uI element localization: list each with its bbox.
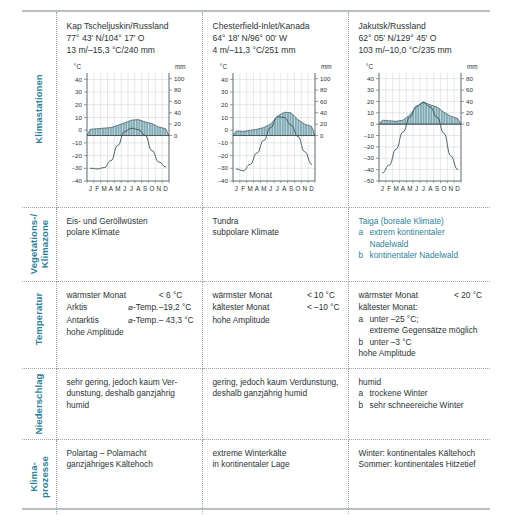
month-label: D	[163, 184, 168, 191]
vegetation-cell-0: Eis- und Geröllwüstenpolare Klimate	[56, 207, 202, 281]
y-tick-label: 10	[221, 113, 228, 120]
climate-comparison-table: Klimastationen Kap Tscheljuskin/Russland…	[0, 0, 508, 516]
temperature-value: < 20 °C	[454, 290, 482, 303]
text-line: Winter: kontinentales Kältehoch	[359, 448, 483, 460]
month-label: F	[95, 184, 99, 191]
comparison-table: Klimastationen Kap Tscheljuskin/Russland…	[22, 12, 490, 514]
y-tick-label: –30	[363, 154, 374, 161]
y-tick-label: 0	[370, 120, 374, 127]
month-label: J	[234, 184, 237, 191]
list-item-label: trockene Winter	[370, 388, 483, 400]
y-tick-label: –20	[217, 151, 228, 158]
y-tick-label: 0	[78, 126, 82, 133]
temperature-subkey	[281, 302, 307, 315]
station-header-1: Chesterfield-Inlet/Kanada 64° 18′ N/96° …	[203, 12, 348, 59]
month-label: A	[136, 184, 141, 191]
temperature-row: Arktis⌀-Temp.–19,2 °C	[67, 302, 194, 315]
row-label-precipitation-cell: Niederschlag	[22, 368, 56, 439]
station-summary-1: 4 m/–11,3 °C/251 mm	[213, 44, 342, 56]
temperature-value: –19,2 °C	[159, 302, 194, 315]
temperature-row: Antarktis⌀-Temp.– 43,3 °C	[67, 315, 194, 328]
y2-tick-label: 0	[320, 131, 324, 138]
y2-tick-label: 40	[466, 97, 473, 104]
y2-tick-label: 60	[320, 97, 327, 104]
climate-diagram-1: °Cmm403020100–10–20–30–40100806040200JFM…	[203, 59, 348, 207]
temperature-row: kältester Monat< –10 °C	[213, 302, 340, 315]
temperature-row: wärmster Monat< 6 °C	[67, 290, 194, 303]
y-tick-label: 40	[75, 75, 82, 82]
y-tick-label: –20	[71, 151, 82, 158]
y2-tick-label: 0	[466, 120, 470, 127]
temperature-subkey	[128, 290, 159, 303]
y-tick-label: –40	[71, 177, 82, 184]
list-item-marker: b	[359, 250, 370, 262]
station-coords-1: 64° 18′ N/96° 00′ W	[213, 32, 342, 44]
temperature-table: wärmster Monat< 6 °CArktis⌀-Temp.–19,2 °…	[67, 290, 194, 328]
row-label-temperature-cell: Temperatur	[22, 281, 56, 368]
y-tick-label: –40	[217, 177, 228, 184]
temperature-key: Arktis	[67, 302, 128, 315]
month-label: M	[261, 184, 266, 191]
station-cell-0: Kap Tscheljuskin/Russland 77° 43′ N/104°…	[56, 12, 202, 207]
y2-tick-label: 60	[174, 97, 181, 104]
month-label: N	[448, 184, 453, 191]
list-item-a: atrockene Winter	[359, 388, 483, 400]
temp-unit-label: °C	[73, 63, 81, 70]
temperature-table: wärmster Monat< 20 °C	[359, 290, 483, 303]
text-line: Polartag – Polarnacht	[67, 448, 194, 460]
list-item-b: bsehr schneereiche Winter	[359, 400, 483, 412]
text-line: humid	[359, 377, 483, 389]
text-line: gering, jedoch kaum Verdunstung,	[213, 377, 340, 389]
list-item: extreme Gegensätze möglich	[359, 325, 483, 337]
list-item-marker: b	[359, 400, 370, 412]
month-label: M	[393, 184, 398, 191]
temperature-subkey: ⌀-Temp.	[128, 302, 159, 315]
temperature-key: wärmster Monat	[359, 290, 427, 303]
precip-unit-label: mm	[175, 63, 186, 70]
month-label: S	[142, 184, 146, 191]
precipitation-area	[379, 102, 461, 124]
table-row-temperature: Temperatur wärmster Monat< 6 °CArktis⌀-T…	[22, 281, 490, 368]
month-label: D	[309, 184, 314, 191]
row-label-temperature: Temperatur	[34, 292, 45, 345]
station-name-0: Kap Tscheljuskin/Russland	[67, 20, 196, 32]
month-label: J	[421, 184, 424, 191]
month-label: J	[275, 184, 278, 191]
precipitation-cell-1: gering, jedoch kaum Verdunstung,deshalb …	[202, 368, 348, 439]
y2-tick-label: 80	[320, 86, 327, 93]
list-item-a: aextrem kontinentaler Nadelwald	[359, 227, 483, 250]
month-label: J	[88, 184, 91, 191]
table-row-precipitation: Niederschlag sehr gering, jedoch kaum Ve…	[22, 368, 490, 439]
row-label-stations: Klimastationen	[34, 74, 45, 144]
month-label: A	[428, 184, 433, 191]
list-item-marker: b	[359, 337, 370, 349]
temperature-key: Antarktis	[67, 315, 128, 328]
precip-unit-label: mm	[321, 63, 332, 70]
table-row-processes: Klima-prozesse Polartag – Polarnachtganz…	[22, 439, 490, 514]
text-line: in kontinentaler Lage	[213, 459, 340, 471]
vegetation-cell-2: Taiga (boreale Klimate)aextrem kontinent…	[348, 207, 490, 281]
month-label: J	[123, 184, 126, 191]
y-tick-label: 30	[221, 88, 228, 95]
temperature-row: wärmster Monat< 20 °C	[359, 290, 483, 303]
station-summary-0: 13 m/–15,3 °C/240 mm	[67, 44, 196, 56]
temperature-value: < 10 °C	[307, 290, 340, 303]
list-item-label: unter –3 °C	[370, 337, 483, 349]
month-label: F	[387, 184, 391, 191]
y-tick-label: –10	[217, 139, 228, 146]
list-item-label: unter –25 °C;	[370, 314, 483, 326]
text-line: deshalb ganzjährig humid	[213, 388, 340, 400]
y2-tick-label: 0	[174, 131, 178, 138]
temperature-cell-1: wärmster Monat< 10 °Ckältester Monat< –1…	[202, 281, 348, 368]
processes-cell-0: Polartag – Polarnachtganzjähriges Kälteh…	[56, 439, 202, 514]
list-item-label: sehr schneereiche Winter	[370, 400, 483, 412]
temperature-value: < 6 °C	[159, 290, 194, 303]
month-label: O	[149, 184, 154, 191]
y-tick-label: –20	[363, 143, 374, 150]
temperature-subkey	[281, 290, 307, 303]
text-line: ganzjähriges Kältehoch	[67, 459, 194, 471]
y-tick-label: 0	[224, 126, 228, 133]
temperature-subkey	[426, 290, 454, 303]
climate-diagram-0: °Cmm403020100–10–20–30–40100806040200JFM…	[57, 59, 202, 207]
temp-unit-label: °C	[365, 63, 373, 70]
